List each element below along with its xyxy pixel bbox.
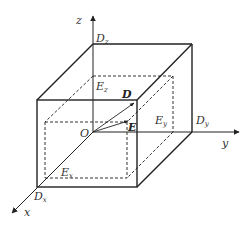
diagram-canvas: z y x O D E Dz Dy Dx Ez Ey Ex bbox=[0, 0, 247, 229]
dy-label: Dy bbox=[195, 114, 210, 128]
dz-label: Dz bbox=[95, 32, 109, 46]
x-axis-label: x bbox=[24, 206, 31, 219]
cube-field-diagram: z y x O D E Dz Dy Dx Ez Ey Ex bbox=[0, 0, 247, 229]
axes bbox=[12, 16, 239, 213]
ez-label: Ez bbox=[95, 80, 108, 94]
ex-label: Ex bbox=[60, 166, 73, 180]
e-vector bbox=[93, 121, 128, 132]
d-vector-label: D bbox=[121, 88, 132, 101]
e-vector-label: E bbox=[127, 121, 137, 134]
y-axis-label: y bbox=[221, 137, 229, 150]
x-axis bbox=[12, 132, 93, 213]
origin-label: O bbox=[80, 127, 89, 140]
ey-label: Ey bbox=[154, 114, 168, 128]
z-axis-label: z bbox=[75, 14, 82, 27]
dx-label: Dx bbox=[33, 190, 47, 204]
